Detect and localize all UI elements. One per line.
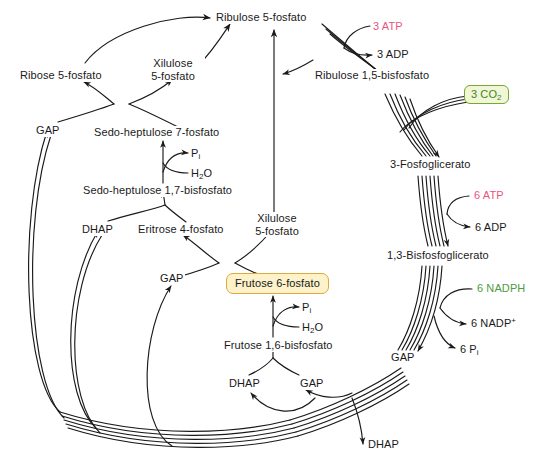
arrow-crossnode1-to-ribose5p [84,82,114,104]
label-dhap-bottom-center: DHAP [228,377,261,390]
label-water-fructose: H2O [301,321,324,334]
label-sedoheptulose-7-phosphate: Sedo-heptulose 7-fosfato [93,126,220,139]
arrow-trunk-to-gap-center [147,286,172,446]
label-fructose-6-phosphate: Frutose 6-fosfato [226,273,329,294]
label-6-nadp-plus: 6 NADP+ [470,317,517,330]
label-pi-sedo: Pi [190,147,201,160]
line-6atp-into-13bpg-step [447,196,469,214]
label-dhap-output: DHAP [367,438,400,451]
label-water-sedo: H2O [190,167,213,180]
bundle-3pg-to-13bpg-s6 [438,176,448,246]
arrow-water-in-fructose [273,317,299,327]
two-subscript: 2 [497,93,502,102]
line-gap-upperleft-to-crossnode1 [58,104,114,122]
label-3-phosphoglycerate: 3-Fosfoglicerato [389,158,471,171]
arrow-crossnode1-to-xilulose5p-top [129,80,172,104]
line-eritrose4p-to-sedo-join [165,205,186,222]
bundle-13bpg-to-gap-s3 [406,266,430,350]
bundle-13bpg-to-gap-s1 [398,266,422,350]
line-sedo7p-to-crossnode1 [129,104,180,128]
label-6-adp: 6 ADP [474,221,508,234]
label-ribulose-1-5-bisphosphate: Ribulose 1,5-bisfosfato [314,69,430,82]
two-subscript: 2 [310,326,315,335]
label-xilulose-mid-line1: Xilulose [257,212,296,224]
label-ribulose-5-phosphate: Ribulose 5-fosfato [215,11,307,24]
arrow-trunk-to-gap-upperleft-s1 [29,131,60,412]
label-6-nadp-plus-text: 6 NADP [471,317,511,329]
arrow-trunk-to-dhap-bottom [251,393,315,411]
i-subscript: i [477,348,479,357]
line-6nadph-into-gap-step [440,289,472,308]
line-trunk-to-dhap-left-s2 [75,235,102,433]
arrow-6nadp-out [440,308,466,324]
label-gap-bottom-center: GAP [299,377,325,390]
label-6-pi-text: 6 P [460,343,477,355]
label-dhap-left: DHAP [81,223,114,236]
label-water-fructose-h: H [302,321,310,333]
line-3atp-into-rubp-step [344,26,370,48]
label-6-nadph: 6 NADPH [476,282,526,295]
label-gap-upper-left: GAP [35,124,61,137]
label-3-atp: 3 ATP [372,20,404,33]
bundle-13bpg-to-gap-s4 [410,266,434,350]
label-3-co2: 3 CO2 [464,85,509,104]
label-gap-right: GAP [390,351,416,364]
label-3-adp: 3 ADP [376,48,410,61]
label-water-fructose-o: O [315,321,324,333]
arrow-crossnode2-to-eritrose4p [183,235,219,263]
arrow-release-pi-sedo [163,153,188,172]
line-trunk-to-gap-upperleft-s2 [33,135,64,418]
bundle-13bpg-to-gap-s6 [418,266,442,351]
label-ribose-5-phosphate: Ribose 5-fosfato [19,69,103,82]
line-dhap-to-sedo-join [108,205,165,221]
label-6-atp: 6 ATP [473,189,505,202]
arrow-6adp-out [447,214,470,227]
label-erythrose-4-phosphate: Eritrose 4-fosfato [137,223,225,236]
label-water-sedo-h: H [191,167,199,179]
label-xilulose-5-phosphate-mid: Xilulose 5-fosfato [245,212,309,237]
label-6-pi: 6 Pi [459,343,480,356]
bundle-13bpg-to-gap-s2 [402,266,426,350]
bundle-13bpg-to-gap-s5 [414,266,438,350]
calvin-cycle-diagram: Ribulose 5-fosfato Ribose 5-fosfato Xilu… [0,0,538,466]
label-sedoheptulose-1-7-bisphosphate: Sedo-heptulose 1,7-bisfosfato [82,184,233,197]
arrow-release-pi-fructose [273,307,299,326]
line-gap-bottom-to-fructose-join [273,358,299,375]
label-3-co2-text: 3 CO [471,88,497,100]
label-xilulose-top-line1: Xilulose [153,57,192,69]
arrow-into-xilulose5p-top [283,60,313,74]
bundle-trunk-left-s4 [66,424,296,443]
arrow-6pi-out [434,316,455,348]
label-xilulose-5-phosphate-top: Xilulose 5-fosfato [141,57,205,82]
label-gap-center: GAP [159,272,185,285]
line-dhap-bottom-to-fructose-join [249,358,273,375]
label-1-3-bisphosphoglycerate: 1,3-Bisfosfoglicerato [386,249,490,262]
label-water-sedo-o: O [204,167,213,179]
label-pi-fructose: Pi [301,301,312,314]
plus-superscript: + [511,316,516,325]
two-subscript: 2 [199,172,204,181]
label-fructose-1-6-bisphosphate: Frutose 1,6-bisfosfato [223,339,334,352]
arrow-trunk-to-gap-bottom [306,390,352,397]
label-xilulose-mid-line2: 5-fosfato [255,225,299,237]
label-xilulose-top-line2: 5-fosfato [151,70,195,82]
